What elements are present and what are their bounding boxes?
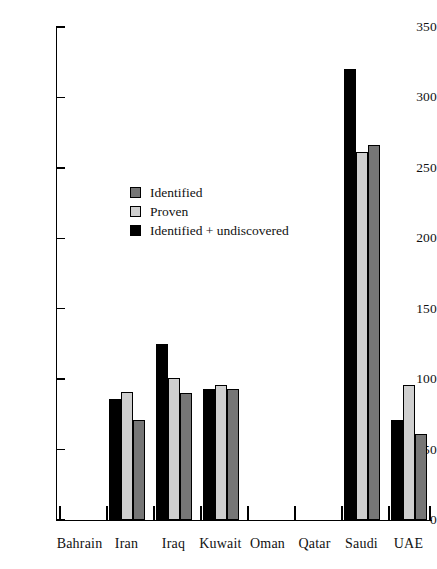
- proven-swatch: [130, 206, 141, 217]
- bar-group: [156, 27, 192, 520]
- bar-group: [203, 27, 239, 520]
- bar-group: [344, 27, 380, 520]
- bar: [368, 145, 380, 520]
- legend-item: Identified: [130, 184, 289, 201]
- bar: [133, 420, 145, 520]
- legend-label: Proven: [150, 204, 188, 219]
- x-category-label: Saudi: [338, 536, 385, 552]
- x-category-label: Qatar: [291, 536, 338, 552]
- identified-swatch: [130, 187, 141, 198]
- x-category-label: Iran: [103, 536, 150, 552]
- bar: [391, 420, 403, 520]
- bar: [109, 399, 121, 520]
- legend-label: Identified: [150, 185, 202, 200]
- x-category-label: UAE: [385, 536, 432, 552]
- undiscovered-swatch: [130, 225, 141, 236]
- legend-item: Proven: [130, 203, 289, 220]
- bar-group: [391, 27, 427, 520]
- legend-item: Identified + undiscovered: [130, 222, 289, 239]
- x-category-label: Oman: [244, 536, 291, 552]
- x-axis-line: [56, 520, 432, 521]
- bar-group: [250, 27, 286, 520]
- bar: [180, 393, 192, 520]
- bar: [156, 344, 168, 520]
- x-category-label: Bahrain: [56, 536, 103, 552]
- x-category-label: Kuwait: [197, 536, 244, 552]
- bar-group: [109, 27, 145, 520]
- plot-area: [56, 27, 432, 520]
- bar-chart: 050100150200250300350 BahrainIranIraqKuw…: [0, 0, 437, 569]
- legend-label: Identified + undiscovered: [150, 223, 289, 238]
- bar: [215, 385, 227, 520]
- bar: [403, 385, 415, 520]
- bar-group: [62, 27, 98, 520]
- bar: [344, 69, 356, 520]
- bar: [415, 434, 427, 520]
- bar: [121, 392, 133, 520]
- bar: [227, 389, 239, 520]
- bar-group: [297, 27, 333, 520]
- bar: [168, 378, 180, 520]
- bar: [356, 152, 368, 520]
- chart-legend: IdentifiedProvenIdentified + undiscovere…: [130, 184, 289, 241]
- x-category-label: Iraq: [150, 536, 197, 552]
- bar: [203, 389, 215, 520]
